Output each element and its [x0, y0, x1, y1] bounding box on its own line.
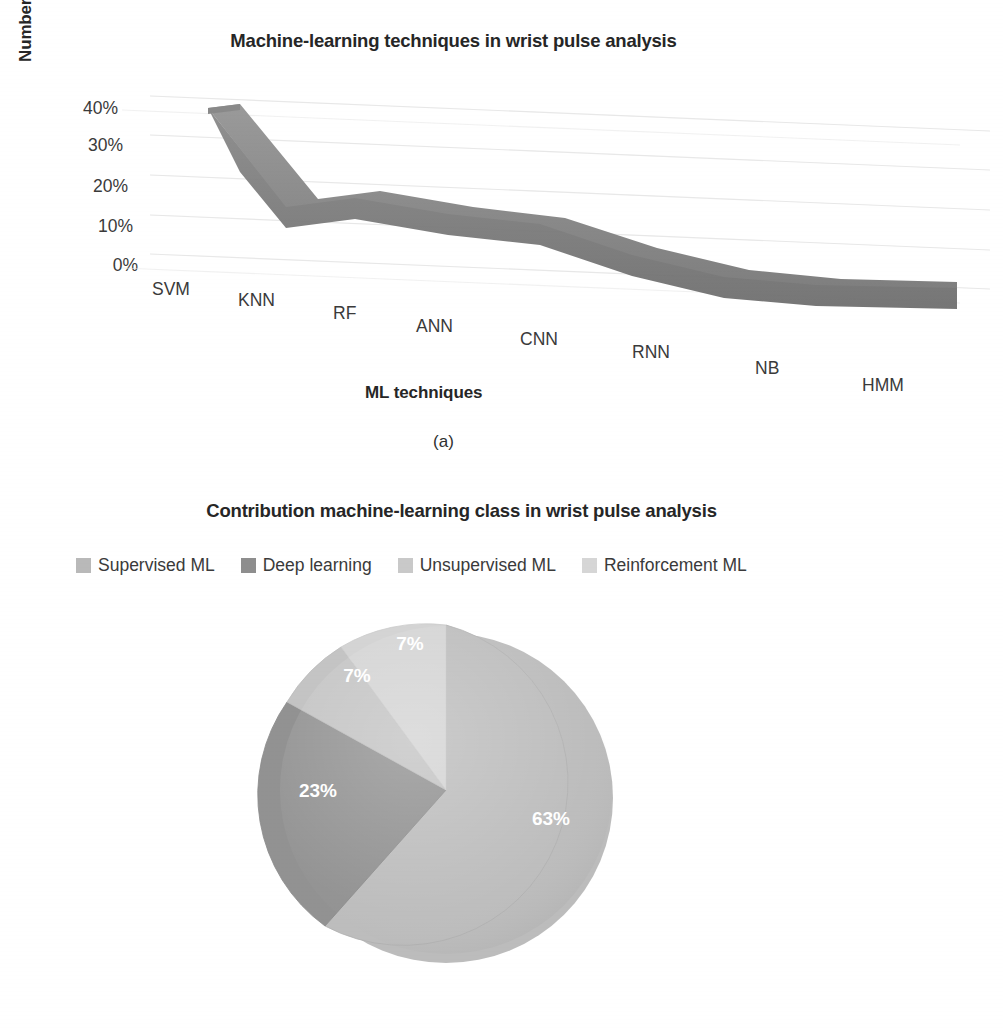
x-axis-title: ML techniques [365, 383, 482, 403]
x-tick-rf: RF [333, 303, 356, 324]
x-tick-nb: NB [755, 358, 779, 379]
figure-b-ml-class-contribution: Contribution machine-learning class in w… [0, 470, 1003, 1028]
pie-label-23: 23% [299, 780, 337, 801]
x-tick-rnn: RNN [632, 342, 670, 363]
pie-label-7-unsupervised: 7% [343, 665, 371, 686]
ribbon-top-face [208, 104, 957, 288]
ribbon-depth-face [208, 108, 957, 309]
x-tick-knn: KNN [238, 290, 275, 311]
pie-label-63: 63% [532, 808, 570, 829]
pie-chart: 63% 23% 7% 7% [0, 470, 1003, 1028]
figure-a-caption: (a) [0, 432, 945, 452]
x-tick-hmm: HMM [862, 375, 904, 396]
chart-a-plot-area [0, 0, 1003, 470]
pie-label-7-reinforcement: 7% [396, 633, 424, 654]
x-tick-svm: SVM [152, 279, 190, 300]
figure-a-ml-techniques: Machine-learning techniques in wrist pul… [0, 0, 1003, 470]
x-tick-ann: ANN [416, 316, 453, 337]
x-tick-cnn: CNN [520, 329, 558, 350]
